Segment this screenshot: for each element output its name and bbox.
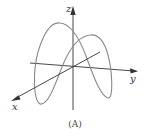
x-axis xyxy=(16,52,100,98)
x-axis-label: x xyxy=(12,102,18,112)
figure-caption: (A) xyxy=(0,119,150,129)
figure-3d-curve: z y x (A) xyxy=(0,0,150,138)
y-axis xyxy=(30,63,134,71)
z-axis-label: z xyxy=(66,4,71,14)
curve-diagram xyxy=(0,0,150,138)
y-axis-label: y xyxy=(130,74,136,84)
